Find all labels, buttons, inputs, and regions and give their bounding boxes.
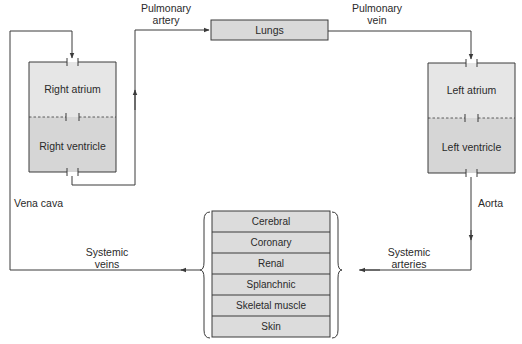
organ-item: Cerebral	[252, 216, 290, 227]
right-ventricle-label: Right ventricle	[39, 140, 106, 152]
left-brace	[200, 212, 210, 338]
lungs-label: Lungs	[255, 24, 284, 36]
pulmonary-vein-path	[328, 31, 471, 59]
organ-list: Cerebral Coronary Renal Splanchnic Skele…	[212, 211, 330, 337]
systemic-arteries-label-1: Systemic	[388, 246, 431, 258]
left-ventricle-label: Left ventricle	[442, 141, 502, 153]
organ-item: Skin	[261, 321, 280, 332]
right-brace	[332, 212, 342, 338]
pulmonary-vein-label-1: Pulmonary	[352, 2, 403, 14]
right-heart: Right atrium Right ventricle	[29, 58, 116, 176]
circulation-diagram: Right atrium Right ventricle Left atrium…	[0, 0, 522, 344]
left-atrium-label: Left atrium	[447, 84, 497, 96]
pulmonary-artery-label-1: Pulmonary	[141, 2, 192, 14]
systemic-veins-label-2: veins	[95, 258, 120, 270]
organ-item: Coronary	[250, 237, 291, 248]
lungs-box: Lungs	[211, 20, 328, 40]
pulmonary-artery-label-2: artery	[153, 14, 181, 26]
left-heart: Left atrium Left ventricle	[428, 59, 515, 177]
pulmonary-vein-label-2: vein	[367, 14, 386, 26]
systemic-veins-label-1: Systemic	[86, 246, 129, 258]
systemic-arteries-label-2: arteries	[391, 258, 426, 270]
vena-cava-label: Vena cava	[14, 197, 63, 209]
organ-item: Skeletal muscle	[236, 300, 306, 311]
aorta-label: Aorta	[478, 197, 503, 209]
organ-item: Renal	[258, 258, 284, 269]
right-atrium-label: Right atrium	[44, 83, 101, 95]
organ-item: Splanchnic	[247, 279, 296, 290]
